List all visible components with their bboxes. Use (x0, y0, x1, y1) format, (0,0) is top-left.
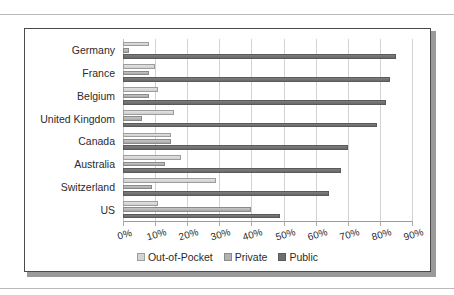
bar-public (123, 191, 329, 196)
x-tick-label: 0% (116, 227, 133, 242)
bar-public (123, 123, 377, 128)
legend-label: Out-of-Pocket (148, 251, 213, 263)
bar-private (123, 116, 142, 121)
bar-private (123, 48, 129, 53)
legend-swatch-icon (278, 253, 286, 261)
tick-mark (284, 221, 285, 226)
bar-public (123, 100, 386, 105)
legend-swatch-icon (224, 253, 232, 261)
tick-mark (187, 221, 188, 226)
y-axis-label: Australia (74, 158, 115, 170)
bar-out-of-pocket (123, 133, 171, 138)
bar-public (123, 77, 390, 82)
bar-group (123, 176, 412, 199)
y-axis-category-labels: GermanyFranceBelgiumUnited KingdomCanada… (25, 39, 121, 221)
tick-mark (348, 221, 349, 226)
bar-private (123, 207, 251, 212)
x-tick-label: 60% (306, 226, 328, 242)
bar-out-of-pocket (123, 155, 181, 160)
y-axis-label: France (82, 67, 115, 79)
bar-group (123, 107, 412, 130)
tick-mark (123, 221, 124, 226)
x-tick-label: 10% (145, 226, 167, 242)
plot-area (123, 39, 412, 221)
bar-groups (123, 39, 412, 221)
bar-out-of-pocket (123, 42, 149, 47)
page-rule-bottom (0, 288, 454, 289)
bar-out-of-pocket (123, 64, 155, 69)
chart-legend: Out-of-PocketPrivatePublic (25, 251, 430, 263)
x-tick-label: 90% (402, 226, 424, 242)
x-tick-label: 40% (242, 226, 264, 242)
bar-group (123, 153, 412, 176)
bar-group (123, 39, 412, 62)
bar-out-of-pocket (123, 201, 158, 206)
bar-group (123, 85, 412, 108)
y-axis-label: Germany (72, 44, 115, 56)
y-axis-label: US (100, 204, 115, 216)
bar-out-of-pocket (123, 87, 158, 92)
bar-group (123, 130, 412, 153)
legend-swatch-icon (137, 253, 145, 261)
bar-public (123, 54, 396, 59)
legend-item-out-of-pocket[interactable]: Out-of-Pocket (137, 251, 213, 263)
legend-item-private[interactable]: Private (224, 251, 268, 263)
bar-out-of-pocket (123, 178, 216, 183)
tick-mark (155, 221, 156, 226)
y-axis-label: United Kingdom (40, 113, 115, 125)
bar-private (123, 94, 149, 99)
x-tick-label: 70% (338, 226, 360, 242)
bar-group (123, 62, 412, 85)
legend-item-public[interactable]: Public (278, 251, 318, 263)
chart-figure: GermanyFranceBelgiumUnited KingdomCanada… (24, 28, 431, 272)
bar-public (123, 145, 348, 150)
gridline (412, 39, 413, 221)
y-axis-label: Switzerland (61, 181, 115, 193)
bar-group (123, 198, 412, 221)
x-tick-label: 20% (178, 226, 200, 242)
bar-private (123, 162, 165, 167)
bar-private (123, 139, 171, 144)
page-rule-top (0, 14, 454, 15)
bar-private (123, 185, 152, 190)
bar-public (123, 214, 280, 219)
bar-public (123, 168, 341, 173)
legend-label: Public (289, 251, 318, 263)
bar-out-of-pocket (123, 110, 174, 115)
tick-mark (219, 221, 220, 226)
tick-mark (316, 221, 317, 226)
tick-mark (251, 221, 252, 226)
x-tick-label: 50% (274, 226, 296, 242)
tick-mark (380, 221, 381, 226)
y-axis-label: Belgium (77, 90, 115, 102)
legend-label: Private (235, 251, 268, 263)
x-tick-label: 30% (210, 226, 232, 242)
x-axis-ticks: 0%10%20%30%40%50%60%70%80%90% (123, 221, 412, 255)
tick-mark (412, 221, 413, 226)
y-axis-label: Canada (78, 135, 115, 147)
x-tick-label: 80% (370, 226, 392, 242)
bar-private (123, 71, 149, 76)
